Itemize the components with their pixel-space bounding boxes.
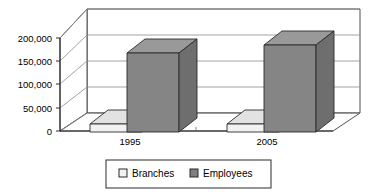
- bar-employees-1995: [127, 39, 197, 132]
- category-label-2005: 2005: [256, 136, 277, 147]
- category-label-1995: 1995: [119, 136, 140, 147]
- axis-tick-label: 100,000: [18, 79, 52, 90]
- chart-container: 200,000 150,000 100,000 50,000 0: [0, 0, 371, 194]
- bar-side-face: [179, 39, 197, 132]
- legend-label-branches: Branches: [132, 168, 174, 179]
- category-axis-labels: 1995 2005: [119, 136, 277, 147]
- legend: Branches Employees: [106, 160, 271, 188]
- bar-front-face: [264, 45, 316, 132]
- value-axis-ticks: [56, 38, 60, 131]
- legend-label-employees: Employees: [203, 168, 252, 179]
- legend-swatch-employees: [190, 169, 198, 177]
- axis-tick-label: 200,000: [18, 33, 52, 44]
- plot-left-wall: [60, 9, 87, 131]
- value-axis-labels: 200,000 150,000 100,000 50,000 0: [18, 33, 52, 137]
- bar-side-face: [316, 31, 334, 132]
- bar-employees-2005: [264, 31, 334, 132]
- legend-item-branches[interactable]: Branches: [119, 168, 174, 179]
- axis-tick-label: 150,000: [18, 56, 52, 67]
- axis-tick-label: 50,000: [23, 103, 52, 114]
- axis-tick-label: 0: [47, 126, 52, 137]
- legend-swatch-branches: [119, 169, 127, 177]
- bar-front-face: [127, 53, 179, 132]
- bar-chart-3d: 200,000 150,000 100,000 50,000 0: [0, 0, 371, 194]
